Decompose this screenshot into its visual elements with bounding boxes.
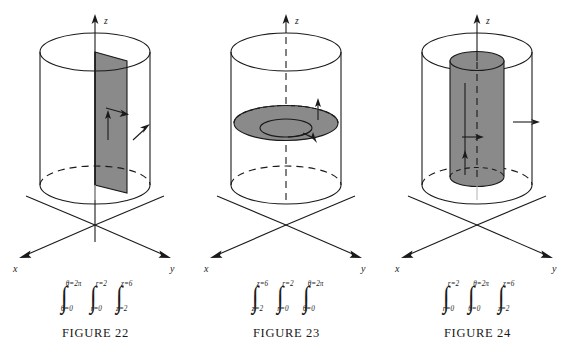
y-axis (477, 225, 546, 255)
y-axis-label: y (551, 263, 557, 274)
figure-24-integral: ∫ r=2 r=0 ∫ θ=2π θ=0 ∫ z=6 (382, 276, 573, 318)
x-axis (26, 225, 95, 255)
integral-sign-2: ∫ r=2 r=0 (89, 282, 105, 312)
integral-upper-limit: θ=2π (308, 281, 324, 288)
integral-upper-limit: z=6 (121, 281, 132, 288)
integral-sign-1: ∫ θ=2π θ=0 (60, 282, 81, 312)
figure-sheet: z x y ∫ θ=2π θ=0 ∫ r=2 r=0 (0, 0, 573, 360)
figure-23-integral: ∫ z=6 z=2 ∫ r=2 r=0 ∫ θ=2π (191, 276, 382, 318)
figure-23: z x y ∫ z=6 z=2 ∫ r=2 r=0 (191, 0, 382, 360)
integral-lower-limit: θ=0 (61, 306, 77, 313)
integral-upper-limit: z=6 (503, 281, 514, 288)
y-axis-label: y (360, 263, 366, 274)
x-axis-label: x (12, 263, 18, 274)
z-axis-label: z (103, 16, 108, 26)
y-axis-arrowhead (159, 251, 172, 259)
integral-upper-limit: θ=2π (473, 281, 489, 288)
figure-22-integral: ∫ θ=2π θ=0 ∫ r=2 r=0 ∫ z=6 (0, 276, 191, 318)
integral-lower-limit: z=2 (498, 306, 509, 313)
integral-sign-2: ∫ r=2 r=0 (276, 282, 292, 312)
y-axis-arrowhead (350, 251, 363, 259)
integral-lower-limit: r=0 (91, 306, 102, 313)
integral-sign-1: ∫ r=2 r=0 (442, 282, 458, 312)
figure-24-diagram: z x y (382, 0, 573, 275)
figure-22-svg: z x y (0, 0, 191, 275)
integral-lower-limit: z=2 (252, 306, 263, 313)
y-axis-arrowhead (541, 251, 554, 259)
x-axis (408, 225, 477, 255)
integral-sign-3: ∫ z=6 z=2 (115, 282, 131, 312)
integral-upper-limit: θ=2π (66, 281, 82, 288)
figure-23-svg: z x y (191, 0, 382, 275)
figure-22: z x y ∫ θ=2π θ=0 ∫ r=2 r=0 (0, 0, 191, 360)
integral-upper-limit: r=2 (96, 281, 107, 288)
x-axis-arrowhead (19, 251, 32, 259)
integral-lower-limit: z=2 (116, 306, 127, 313)
integral-lower-limit: r=0 (277, 306, 288, 313)
y-axis-label: y (169, 263, 175, 274)
x-axis-label: x (203, 263, 209, 274)
z-axis-label: z (294, 16, 299, 26)
integral-sign-2: ∫ θ=2π θ=0 (467, 282, 488, 312)
integral-sign-3: ∫ θ=2π θ=0 (302, 282, 323, 312)
figure-24-caption: FIGURE 24 (382, 326, 573, 341)
figure-24-svg: z x y (382, 0, 573, 275)
x-axis-arrowhead (210, 251, 223, 259)
integral-upper-limit: z=6 (257, 281, 268, 288)
integral-upper-limit: r=2 (282, 281, 293, 288)
z-axis-label: z (485, 16, 490, 26)
figure-23-diagram: z x y (191, 0, 382, 275)
x-axis-label: x (394, 263, 400, 274)
figure-22-diagram: z x y (0, 0, 191, 275)
integral-lower-limit: θ=0 (303, 306, 319, 313)
constant-theta-plane (95, 52, 127, 193)
integral-sign-1: ∫ z=6 z=2 (251, 282, 267, 312)
x-axis (217, 225, 286, 255)
figure-23-caption: FIGURE 23 (191, 326, 382, 341)
x-axis-arrowhead (401, 251, 414, 259)
figure-22-caption: FIGURE 22 (0, 326, 191, 341)
figure-24: z x y ∫ r=2 r=0 ∫ θ=2π θ=0 (382, 0, 573, 360)
integral-sign-3: ∫ z=6 z=2 (497, 282, 513, 312)
y-axis (286, 225, 355, 255)
integral-upper-limit: r=2 (448, 281, 459, 288)
integral-lower-limit: r=0 (443, 306, 454, 313)
y-axis (95, 225, 164, 255)
integral-lower-limit: θ=0 (468, 306, 484, 313)
